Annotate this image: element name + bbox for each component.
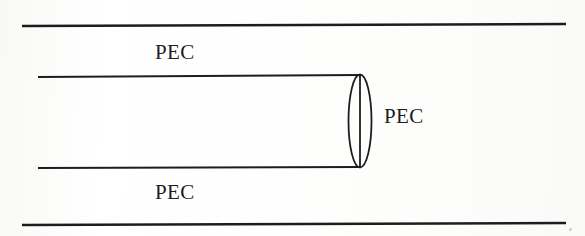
bottom-outer-boundary-line xyxy=(22,223,566,225)
pec-label-top: PEC xyxy=(155,42,195,63)
pec-label-bottom: PEC xyxy=(155,182,195,203)
figure-canvas: PEC PEC PEC xyxy=(0,0,585,236)
cylinder-bottom-wall-line xyxy=(38,167,360,168)
cylinder-top-wall-line xyxy=(38,75,360,77)
scan-artifact-speck xyxy=(569,228,572,231)
waveguide-diagram xyxy=(0,0,585,236)
pec-label-right: PEC xyxy=(384,106,424,127)
top-outer-boundary-line xyxy=(22,24,566,26)
